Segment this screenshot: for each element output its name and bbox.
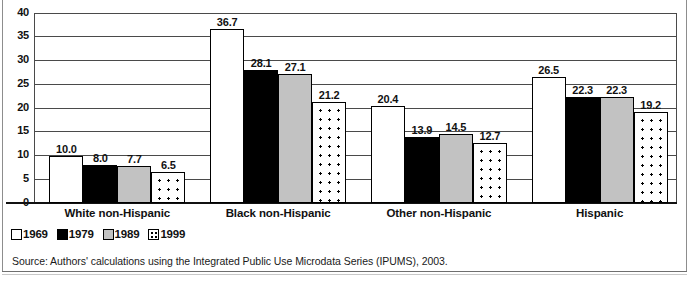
bar[interactable]: 8.0 xyxy=(83,165,117,203)
bar-value-label: 26.5 xyxy=(538,64,559,76)
figure-border-bottom-shadow xyxy=(2,274,687,275)
bar[interactable]: 20.4 xyxy=(371,106,405,203)
y-axis-line xyxy=(34,13,35,203)
bar[interactable]: 14.5 xyxy=(439,134,473,203)
bar-value-label: 8.0 xyxy=(93,152,108,164)
bar[interactable]: 10.0 xyxy=(49,156,83,204)
legend-label: 1969 xyxy=(23,228,48,240)
legend-item-1999[interactable]: 1999 xyxy=(148,228,185,240)
legend-item-1989[interactable]: 1989 xyxy=(103,228,140,240)
bar[interactable]: 13.9 xyxy=(405,137,439,203)
bar-group: 10.08.07.76.5 xyxy=(49,13,185,203)
legend-label: 1989 xyxy=(115,228,140,240)
legend-swatch-icon xyxy=(11,229,22,240)
bar-value-label: 20.4 xyxy=(378,93,399,105)
bar-value-label: 7.7 xyxy=(127,153,142,165)
y-axis-tick-10: 10 xyxy=(17,148,29,160)
bar-value-label: 13.9 xyxy=(412,124,433,136)
bar-value-label: 10.0 xyxy=(56,143,77,155)
category-label: Hispanic xyxy=(576,207,623,219)
y-axis-tick-40: 40 xyxy=(17,5,29,17)
bar-value-label: 12.7 xyxy=(480,130,501,142)
bar-group: 26.522.322.319.2 xyxy=(532,13,668,203)
y-axis-tick-25: 25 xyxy=(17,76,29,88)
category-label: White non-Hispanic xyxy=(65,207,171,219)
legend-label: 1999 xyxy=(160,228,185,240)
bar[interactable]: 6.5 xyxy=(151,172,185,203)
bar-value-label: 36.7 xyxy=(217,16,238,28)
source-note: Source: Authors' calculations using the … xyxy=(12,255,448,267)
bar[interactable]: 27.1 xyxy=(278,74,312,203)
legend-swatch-icon xyxy=(103,229,114,240)
bar[interactable]: 36.7 xyxy=(210,29,244,203)
category-label: Other non-Hispanic xyxy=(386,207,491,219)
legend-swatch-icon xyxy=(57,229,68,240)
bar-group: 36.728.127.121.2 xyxy=(210,13,346,203)
bar-value-label: 28.1 xyxy=(251,57,272,69)
bar[interactable]: 22.3 xyxy=(600,97,634,203)
y-axis-tick-5: 5 xyxy=(23,171,29,183)
figure-border-bottom xyxy=(2,271,687,272)
y-axis-tick-30: 30 xyxy=(17,53,29,65)
y-axis-tick-35: 35 xyxy=(17,29,29,41)
bar[interactable]: 28.1 xyxy=(244,70,278,203)
y-axis-tick-15: 15 xyxy=(17,124,29,136)
legend-swatch-icon xyxy=(148,229,159,240)
bar[interactable]: 7.7 xyxy=(117,166,151,203)
plot-area: 0510152025303540 10.08.07.76.536.728.127… xyxy=(34,13,677,203)
legend-item-1979[interactable]: 1979 xyxy=(57,228,94,240)
bar-value-label: 22.3 xyxy=(572,84,593,96)
bar-value-label: 6.5 xyxy=(161,159,176,171)
bar[interactable]: 21.2 xyxy=(312,102,346,203)
y-axis-tick-20: 20 xyxy=(17,100,29,112)
figure-border-left xyxy=(2,0,3,272)
bar-group: 20.413.914.512.7 xyxy=(371,13,507,203)
bar-value-label: 27.1 xyxy=(285,61,306,73)
chart-legend: 1969197919891999 xyxy=(11,228,185,240)
plot-right-edge xyxy=(676,13,677,203)
legend-item-1969[interactable]: 1969 xyxy=(11,228,48,240)
bar-value-label: 19.2 xyxy=(640,99,661,111)
figure-border-right xyxy=(686,0,687,272)
bar[interactable]: 22.3 xyxy=(566,97,600,203)
bar-value-label: 22.3 xyxy=(606,84,627,96)
bar[interactable]: 26.5 xyxy=(532,77,566,203)
bar-value-label: 21.2 xyxy=(319,89,340,101)
bar[interactable]: 12.7 xyxy=(473,143,507,203)
bar-value-label: 14.5 xyxy=(446,121,467,133)
legend-label: 1979 xyxy=(69,228,94,240)
bar[interactable]: 19.2 xyxy=(634,112,668,203)
figure-bar-chart: 0510152025303540 10.08.07.76.536.728.127… xyxy=(0,0,689,281)
category-label: Black non-Hispanic xyxy=(226,207,331,219)
